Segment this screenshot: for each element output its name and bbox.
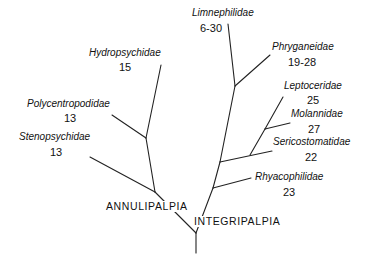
branch-phryganeidae [235, 55, 270, 86]
branch-integripalpia-inner-1 [213, 162, 220, 188]
branch-molannidae [265, 123, 290, 129]
branch-rhyacophilidae [213, 178, 251, 188]
branch-annulipalpia [155, 192, 196, 233]
taxon-value-rhyacophilidae: 23 [283, 187, 295, 198]
branch-hydropsychidae [146, 65, 161, 138]
branch-integripalpia-inner-2 [220, 86, 235, 162]
taxon-value-molannidae: 27 [308, 124, 320, 135]
branch-stenopsychidae [90, 157, 155, 192]
branch-limnephilidae [228, 24, 235, 86]
taxon-value-polycentropodidae: 13 [64, 113, 76, 124]
taxon-value-phryganeidae: 19-28 [288, 57, 316, 68]
taxon-value-limnephilidae: 6-30 [200, 23, 222, 34]
branch-leptoceroid [250, 129, 265, 155]
branch-leptoceridae [265, 97, 283, 129]
branch-sericostomatidae [220, 151, 272, 162]
taxon-name-limnephilidae: Limnephilidae [192, 8, 254, 18]
taxon-name-rhyacophilidae: Rhyacophilidae [255, 172, 323, 182]
taxon-value-stenopsychidae: 13 [50, 147, 62, 158]
taxon-name-molannidae: Molannidae [291, 109, 343, 119]
taxon-name-stenopsychidae: Stenopsychidae [19, 132, 90, 142]
branch-polycentropodidae [112, 115, 146, 138]
taxon-value-leptoceridae: 25 [307, 95, 319, 106]
taxon-name-phryganeidae: Phryganeidae [272, 42, 334, 52]
branch-annulipalpia-inner [146, 138, 155, 192]
group-label-integripalpia: INTEGRIPALPIA [193, 216, 281, 227]
taxon-name-polycentropodidae: Polycentropodidae [27, 99, 110, 109]
taxon-name-hydropsychidae: Hydropsychidae [89, 48, 161, 58]
taxon-name-leptoceridae: Leptoceridae [284, 81, 342, 91]
taxon-value-sericostomatidae: 22 [305, 152, 317, 163]
taxon-name-sericostomatidae: Sericostomatidae [273, 137, 350, 147]
phylogenetic-tree: Hydropsychidae 15 Polycentropodidae 13 S… [0, 0, 373, 262]
group-label-annulipalpia: ANNULIPALPIA [105, 201, 189, 212]
taxon-value-hydropsychidae: 15 [119, 62, 131, 73]
